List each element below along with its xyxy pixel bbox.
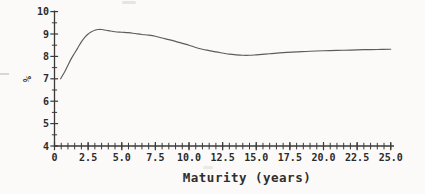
x-tick-label: 20.0 <box>311 152 335 163</box>
y-axis-title: % <box>21 71 37 87</box>
y-tick-label: 10 <box>37 6 49 17</box>
x-tick-label: 7.5 <box>146 152 164 163</box>
yield-curve-figure: 02.55.07.510.012.515.017.520.022.525.045… <box>0 0 425 194</box>
x-tick-label: 2.5 <box>79 152 97 163</box>
x-tick-label: 15.0 <box>244 152 268 163</box>
x-tick-label: 10.0 <box>177 152 201 163</box>
y-tick-label: 8 <box>43 51 49 62</box>
y-tick-label: 5 <box>43 118 49 129</box>
x-tick-label: 25.0 <box>379 152 403 163</box>
chart-canvas: 02.55.07.510.012.515.017.520.022.525.045… <box>0 0 425 194</box>
y-tick-label: 6 <box>43 96 49 107</box>
x-tick-label: 0 <box>51 152 57 163</box>
y-tick-label: 9 <box>43 29 49 40</box>
y-tick-label: 7 <box>43 73 49 84</box>
x-tick-label: 5.0 <box>113 152 131 163</box>
x-tick-label: 12.5 <box>211 152 235 163</box>
x-tick-label: 22.5 <box>345 152 369 163</box>
yield-curve-line <box>61 29 391 78</box>
x-tick-label: 17.5 <box>278 152 302 163</box>
x-axis-title: Maturity (years) <box>147 170 347 185</box>
y-tick-label: 4 <box>43 141 49 152</box>
